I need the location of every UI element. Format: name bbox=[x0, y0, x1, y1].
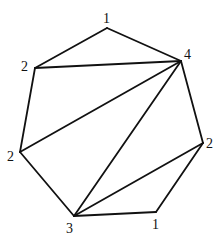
polygon-edge bbox=[74, 212, 156, 216]
vertex-label: 2 bbox=[21, 59, 28, 74]
vertex-labels: 1421322 bbox=[7, 11, 213, 236]
triangulated-heptagon-diagram: 1421322 bbox=[0, 0, 223, 240]
diagonal bbox=[35, 61, 181, 68]
polygon-edge bbox=[156, 143, 203, 212]
polygon-edge bbox=[107, 28, 181, 61]
polygon-edge bbox=[181, 61, 203, 143]
diagonal bbox=[74, 61, 181, 216]
vertex-label: 1 bbox=[152, 217, 159, 232]
diagonal bbox=[20, 61, 181, 152]
vertex-label: 2 bbox=[7, 149, 14, 164]
polygon-edge bbox=[20, 152, 74, 216]
polygon-edge bbox=[20, 68, 35, 152]
polygon-edges bbox=[20, 28, 203, 216]
diagonal bbox=[74, 143, 203, 216]
diagonals bbox=[20, 61, 203, 216]
vertex-label: 2 bbox=[206, 136, 213, 151]
vertex-label: 4 bbox=[184, 47, 191, 62]
polygon-edge bbox=[35, 28, 107, 68]
vertex-label: 1 bbox=[103, 11, 110, 26]
vertex-label: 3 bbox=[66, 221, 73, 236]
